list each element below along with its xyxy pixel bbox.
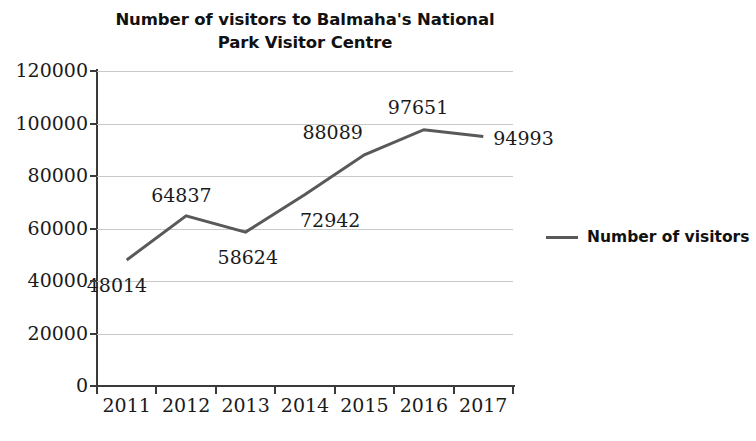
data-label-2011: 48014 [87, 276, 147, 295]
y-tick-label-60000: 60000 [2, 219, 88, 238]
y-tick-mark-120000 [90, 70, 97, 72]
x-tick-mark-7 [512, 386, 514, 394]
gridline-20000 [97, 334, 513, 335]
chart-legend: Number of visitors [546, 228, 749, 246]
gridline-120000 [97, 71, 513, 72]
x-tick-mark-5 [393, 386, 395, 394]
data-label-2017: 94993 [493, 129, 553, 148]
y-tick-mark-40000 [90, 280, 97, 282]
chart-title: Number of visitors to Balmaha's National… [95, 8, 515, 54]
line-chart: Number of visitors to Balmaha's National… [0, 0, 756, 441]
y-tick-label-100000: 100000 [2, 114, 88, 133]
y-tick-mark-60000 [90, 228, 97, 230]
x-tick-mark-4 [334, 386, 336, 394]
x-tick-mark-0 [96, 386, 98, 394]
y-tick-label-0: 0 [2, 376, 88, 395]
y-tick-mark-80000 [90, 175, 97, 177]
data-label-2016: 97651 [388, 98, 448, 117]
data-label-2014: 72942 [300, 211, 360, 230]
x-tick-mark-6 [453, 386, 455, 394]
y-tick-label-80000: 80000 [2, 166, 88, 185]
x-tick-mark-1 [155, 386, 157, 394]
x-tick-mark-3 [274, 386, 276, 394]
data-label-2012: 64837 [151, 186, 211, 205]
x-tick-mark-2 [215, 386, 217, 394]
y-tick-label-40000: 40000 [2, 271, 88, 290]
y-tick-mark-100000 [90, 123, 97, 125]
data-label-2013: 58624 [218, 248, 278, 267]
gridline-80000 [97, 176, 513, 177]
y-tick-mark-20000 [90, 333, 97, 335]
legend-entry-label: Number of visitors [587, 228, 749, 246]
y-axis-tick-labels: 020000400006000080000100000120000 [0, 0, 88, 441]
legend-line-swatch [546, 236, 578, 239]
gridline-40000 [97, 281, 513, 282]
y-tick-label-120000: 120000 [2, 61, 88, 80]
y-tick-label-20000: 20000 [2, 324, 88, 343]
y-tick-mark-0 [90, 385, 97, 387]
data-label-2015: 88089 [302, 123, 362, 142]
x-tick-label-2017: 2017 [448, 396, 518, 415]
